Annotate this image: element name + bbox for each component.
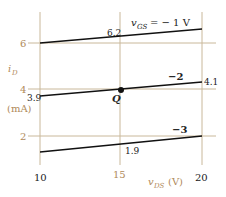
xtick-15: 15 [113,169,126,180]
xlabel-sub: DS [153,182,165,190]
ylabel-unit: (mA) [7,103,32,114]
xlabel-unit: (V) [168,176,183,187]
ylabel-sub: D [11,69,18,77]
annotation-3-9: 3.9 [27,93,42,103]
xtick-20: 20 [195,172,208,183]
curve-label-minus2: −2 [168,71,183,82]
xtick-10: 10 [34,172,47,183]
annotation-1-9: 1.9 [125,146,140,156]
ytick-6: 6 [20,38,26,49]
ytick-4: 4 [20,84,26,95]
annotation-6-2: 6.2 [107,28,121,38]
vgs-label-sub: GS [137,23,148,31]
curve-label-minus3: −3 [172,124,187,135]
curve-vgs-minus3 [40,136,202,152]
vgs-label-value: = − 1 V [150,17,191,28]
ylabel-i: i [8,63,11,74]
ytick-2: 2 [20,131,26,142]
chart-canvas: 6 4 2 i D (mA) 10 15 20 v DS (V) v GS = … [0,0,226,197]
annotation-4-1: 4.1 [204,77,218,87]
q-point-label: Q [112,93,121,104]
